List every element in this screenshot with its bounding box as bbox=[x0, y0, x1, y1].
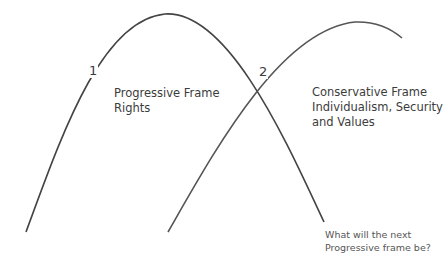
progressive-frame-subtitle: Rights bbox=[114, 101, 220, 116]
curve-label-1: 1 bbox=[88, 64, 98, 78]
conservative-frame-line2: Individualism, Security bbox=[312, 100, 443, 115]
next-frame-question: What will the next Progressive frame be? bbox=[325, 228, 431, 254]
conservative-frame-line3: and Values bbox=[312, 115, 443, 130]
curve-label-2: 2 bbox=[258, 65, 268, 79]
curves-canvas bbox=[0, 0, 447, 266]
progressive-frame-title: Progressive Frame bbox=[114, 86, 220, 101]
question-line1: What will the next bbox=[325, 228, 431, 241]
question-line2: Progressive frame be? bbox=[325, 241, 431, 254]
progressive-curve bbox=[26, 14, 324, 232]
progressive-frame-label: Progressive Frame Rights bbox=[114, 86, 220, 116]
conservative-frame-title: Conservative Frame bbox=[312, 85, 443, 100]
conservative-frame-label: Conservative Frame Individualism, Securi… bbox=[312, 85, 443, 130]
